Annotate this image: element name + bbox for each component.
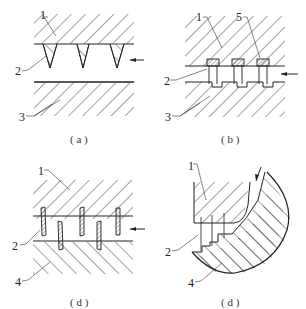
label-5-b: 5 [236,11,242,23]
panel-d-right [172,164,292,282]
label-3-a: 3 [19,111,25,123]
panel-b [170,16,298,117]
label-1-d-left: 1 [38,165,44,177]
caption-b: ( b ) [221,133,239,145]
label-2-b: 2 [164,75,170,87]
caption-d-left: ( d ) [70,296,88,308]
label-4-d-left: 4 [15,276,21,288]
diagram-canvas [0,0,306,309]
caption-a: ( a ) [70,133,88,145]
label-4-d-right: 4 [188,277,194,289]
label-2-d-right: 2 [165,246,171,258]
label-3-b: 3 [165,111,171,123]
label-1-d-right: 1 [188,160,194,172]
label-2-a: 2 [15,65,21,77]
panel-d-left [20,170,145,281]
label-2-d-left: 2 [12,240,18,252]
caption-d-right: ( d ) [221,296,239,308]
label-1-a: 1 [40,9,46,21]
panel-a [22,14,144,116]
label-1-b: 1 [196,11,202,23]
